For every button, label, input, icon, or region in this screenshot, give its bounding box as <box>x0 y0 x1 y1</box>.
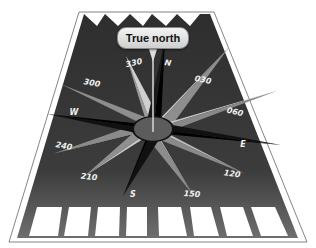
compass-label-e: E <box>240 140 245 149</box>
callout-label: True north <box>126 32 180 44</box>
true-north-callout: True north <box>117 27 189 49</box>
compass-label-s: S <box>130 190 136 199</box>
runway-diagram: True north 330 N 030 060 E 120 150 S 210… <box>0 0 316 248</box>
compass-label-n: N <box>164 58 172 68</box>
compass-label-w: W <box>70 108 79 117</box>
compass-label-210: 210 <box>80 172 98 183</box>
threshold-bar <box>95 207 120 236</box>
compass-label-150: 150 <box>183 189 200 199</box>
threshold-bar <box>126 207 147 236</box>
